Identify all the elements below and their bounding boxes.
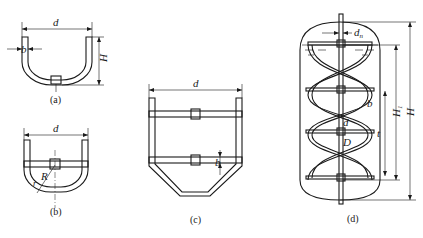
label-d: d [53,16,59,28]
label-d-inner: d [343,116,349,128]
caption-d: (d) [347,213,359,225]
label-r: r [33,178,37,188]
caption-a: (a) [50,94,61,106]
panel-c-frame: d b (c) [149,77,242,226]
label-b: b [367,97,373,109]
caption-b: (b) [50,206,62,218]
label-H: H [404,107,416,117]
label-dn: dn [354,26,364,40]
panel-a-anchor: d b H (a) [7,16,109,106]
label-H1: H1 [390,106,404,118]
label-d: d [53,122,59,134]
caption-c: (c) [190,214,201,226]
panel-b-anchor-crossbar: R r d (b) [24,122,88,218]
label-d: d [193,77,199,89]
label-b: b [215,156,221,168]
panel-d-helical-ribbon: dn b d D t H1 H (d) [300,14,416,225]
label-b: b [21,43,27,55]
label-R: R [40,170,48,182]
impeller-diagram: d b H (a) R r d (b) d [0,0,423,238]
label-D-outer: D [342,136,351,148]
label-H: H [97,53,109,63]
